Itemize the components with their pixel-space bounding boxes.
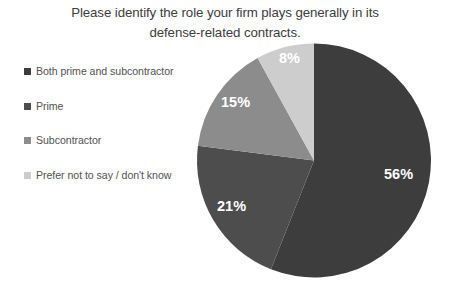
pie-chart-svg <box>0 0 450 292</box>
chart-canvas: Please identify the role your firm plays… <box>0 0 450 292</box>
pie-slice-group <box>197 44 431 278</box>
pie-chart: 56% 21% 15% 8% <box>0 0 450 292</box>
pie-slice-value-label: 8% <box>279 50 300 66</box>
pie-slice-value-label: 21% <box>217 198 246 214</box>
pie-slice-value-label: 15% <box>221 94 250 110</box>
pie-slice-value-label: 56% <box>384 166 413 182</box>
